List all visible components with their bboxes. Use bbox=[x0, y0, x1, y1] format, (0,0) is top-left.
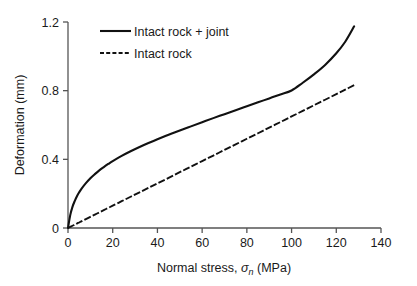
x-tick-label: 0 bbox=[65, 236, 72, 250]
legend-label-1: Intact rock bbox=[134, 47, 192, 61]
y-axis-title: Deformation (mm) bbox=[13, 75, 27, 176]
x-tick-label: 40 bbox=[150, 236, 164, 250]
chart-figure: 00.40.81.2 020406080100120140 Deformatio… bbox=[0, 0, 417, 286]
y-tick-label: 0.8 bbox=[42, 84, 59, 98]
x-tick-label: 140 bbox=[371, 236, 392, 250]
x-tick-label: 120 bbox=[326, 236, 347, 250]
legend-label-0: Intact rock + joint bbox=[134, 25, 229, 39]
y-tick-label: 1.2 bbox=[42, 16, 59, 30]
x-tick-label: 100 bbox=[281, 236, 302, 250]
deformation-vs-normal-stress-chart: 00.40.81.2 020406080100120140 Deformatio… bbox=[0, 0, 417, 286]
x-tick-label: 80 bbox=[240, 236, 254, 250]
x-tick-label: 20 bbox=[106, 236, 120, 250]
y-tick-label: 0.4 bbox=[42, 153, 59, 167]
y-tick-label: 0 bbox=[52, 222, 59, 236]
x-tick-label: 60 bbox=[195, 236, 209, 250]
x-axis-title: Normal stress, σn (MPa) bbox=[157, 261, 291, 277]
